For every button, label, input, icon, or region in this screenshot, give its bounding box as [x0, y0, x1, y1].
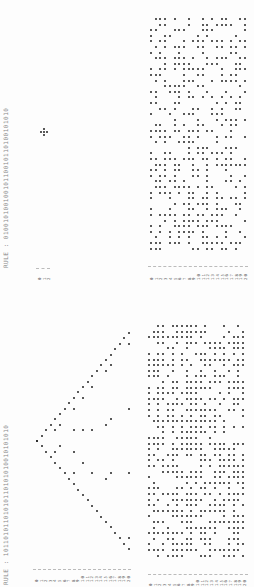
cell-dot — [233, 426, 235, 428]
cell-dot — [181, 431, 183, 433]
cell-dot — [176, 325, 178, 327]
cell-dot — [223, 555, 225, 557]
cell-dot — [174, 214, 176, 216]
cell-dot — [183, 57, 185, 59]
cell-dot — [211, 40, 213, 42]
cell-dot — [87, 381, 89, 383]
cell-dot — [233, 510, 235, 512]
cell-dot — [150, 242, 152, 244]
cell-dot — [216, 102, 218, 104]
cell-dot — [219, 403, 221, 405]
cell-dot — [188, 197, 190, 199]
cell-dot — [195, 448, 197, 450]
cell-dot — [174, 57, 176, 59]
cell-dot — [223, 459, 225, 461]
cell-dot — [244, 46, 246, 48]
cell-dot — [206, 248, 208, 250]
cell-dot — [153, 510, 155, 512]
cell-dot — [172, 471, 174, 473]
cell-dot — [204, 532, 206, 534]
cell-dot — [230, 124, 232, 126]
cell-dot — [200, 515, 202, 517]
cell-dot — [153, 443, 155, 445]
cell-dot — [155, 130, 157, 132]
cell-dot — [228, 409, 230, 411]
cell-dot — [209, 347, 211, 349]
cell-dot — [73, 429, 75, 431]
cell-dot — [186, 431, 188, 433]
cell-dot — [174, 63, 176, 65]
cell-dot — [45, 429, 47, 431]
cell-dot — [195, 387, 197, 389]
cell-dot — [239, 164, 241, 166]
cell-dot — [225, 24, 227, 26]
cell-dot — [244, 186, 246, 188]
cell-dot — [96, 370, 98, 372]
cell-dot — [206, 208, 208, 210]
cell-dot — [237, 465, 239, 467]
cell-dot — [233, 387, 235, 389]
cell-dot — [233, 336, 235, 338]
cell-dot — [186, 448, 188, 450]
cell-dot — [190, 510, 192, 512]
cell-dot — [190, 471, 192, 473]
cell-dot — [148, 532, 150, 534]
cell-dot — [239, 208, 241, 210]
row-number-label: 20 — [243, 273, 248, 280]
cell-dot — [148, 476, 150, 478]
cell-dot — [228, 482, 230, 484]
cell-dot — [242, 353, 244, 355]
cell-dot — [167, 420, 169, 422]
cell-dot — [164, 85, 166, 87]
cell-dot — [54, 462, 56, 464]
cell-dot — [181, 471, 183, 473]
rule-label-lower: RULE : 10110101101010110101010010101010 — [2, 425, 9, 585]
cell-dot — [202, 242, 204, 244]
cell-dot — [216, 164, 218, 166]
cell-dot — [169, 91, 171, 93]
cell-dot — [45, 451, 47, 453]
cell-dot — [172, 364, 174, 366]
cell-dot — [169, 158, 171, 160]
cell-dot — [202, 68, 204, 70]
cell-dot — [233, 398, 235, 400]
row-labels-divider-lower-large — [148, 574, 248, 576]
cell-dot — [148, 375, 150, 377]
cell-dot — [204, 527, 206, 529]
cell-dot — [41, 445, 43, 447]
cell-dot — [150, 40, 152, 42]
cell-dot — [209, 459, 211, 461]
cell-dot — [157, 443, 159, 445]
cell-dot — [237, 521, 239, 523]
cell-dot — [183, 225, 185, 227]
cell-dot — [155, 74, 157, 76]
cell-dot — [206, 236, 208, 238]
cell-dot — [204, 543, 206, 545]
cell-dot — [242, 392, 244, 394]
cell-dot — [186, 325, 188, 327]
cell-dot — [242, 415, 244, 417]
cell-dot — [176, 448, 178, 450]
cell-dot — [192, 208, 194, 210]
cell-dot — [172, 387, 174, 389]
cell-dot — [244, 119, 246, 121]
cell-dot — [148, 515, 150, 517]
cell-dot — [221, 74, 223, 76]
cell-dot — [214, 353, 216, 355]
cell-dot — [200, 465, 202, 467]
cell-dot — [43, 131, 45, 133]
cell-dot — [164, 40, 166, 42]
cell-dot — [162, 549, 164, 551]
cell-dot — [190, 499, 192, 501]
cell-dot — [169, 152, 171, 154]
cell-dot — [225, 147, 227, 149]
cell-dot — [244, 158, 246, 160]
cell-dot — [219, 448, 221, 450]
cell-dot — [190, 443, 192, 445]
cell-dot — [200, 415, 202, 417]
cell-dot — [174, 119, 176, 121]
cell-dot — [192, 175, 194, 177]
cell-dot — [214, 510, 216, 512]
cell-dot — [197, 46, 199, 48]
cell-dot — [209, 342, 211, 344]
